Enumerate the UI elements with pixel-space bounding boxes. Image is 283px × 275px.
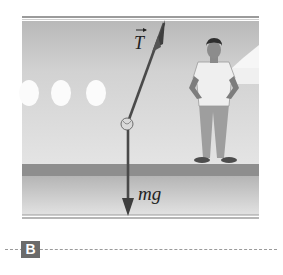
- panel-label-badge: B: [21, 241, 40, 258]
- window-1: [19, 80, 39, 106]
- window-3: [86, 80, 106, 106]
- window-2: [51, 80, 71, 106]
- cabin-ceiling: [22, 17, 259, 20]
- pendulum-bob: [121, 118, 133, 130]
- physics-figure: T mg B: [0, 0, 283, 275]
- cabin-bottom-border: [22, 215, 259, 218]
- tension-label: T: [134, 34, 144, 52]
- cabin-floor-band: [22, 164, 259, 176]
- cabin-windows: [19, 80, 106, 106]
- weight-label: mg: [138, 184, 161, 204]
- section-divider: [5, 249, 277, 250]
